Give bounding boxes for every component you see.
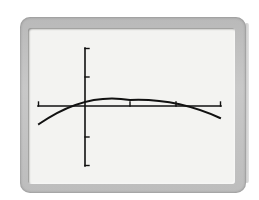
graph-plot xyxy=(0,0,259,200)
